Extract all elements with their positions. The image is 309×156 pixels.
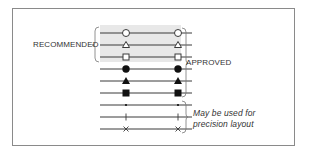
open-square-icon xyxy=(123,54,129,60)
dot-icon xyxy=(125,104,127,106)
open-square-icon xyxy=(175,54,181,60)
dot-icon xyxy=(177,104,179,106)
filled-circle-icon xyxy=(122,65,129,72)
recommended-label: RECOMMENDED xyxy=(33,40,99,49)
precision-label-line1: May be used for xyxy=(193,108,255,119)
precision-label: May be used for precision layout xyxy=(193,108,255,130)
open-circle-icon xyxy=(123,30,130,37)
filled-square-icon xyxy=(123,90,130,97)
approved-label: APPROVED xyxy=(186,58,231,67)
precision-label-line2: precision layout xyxy=(193,119,255,130)
marker-lines-diagram xyxy=(0,0,309,156)
open-circle-icon xyxy=(175,30,182,37)
filled-circle-icon xyxy=(174,65,181,72)
filled-square-icon xyxy=(175,90,182,97)
